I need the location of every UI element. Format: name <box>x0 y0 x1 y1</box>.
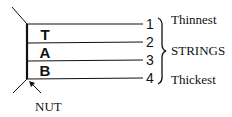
curly-brace <box>158 18 166 84</box>
thickest-label: Thickest <box>171 72 216 87</box>
nut-bottom-diagonal <box>13 79 27 93</box>
string-number-2: 2 <box>146 34 154 50</box>
strings-label: STRINGS <box>171 43 225 58</box>
nut-top-diagonal <box>12 7 27 24</box>
tab-diagram: T A B 1 2 3 4 Thinnest STRINGS Thickest … <box>0 0 232 117</box>
tab-letter-b: B <box>40 62 51 79</box>
nut-label: NUT <box>35 99 62 114</box>
string-number-1: 1 <box>146 16 154 32</box>
tab-letter-a: A <box>40 44 51 61</box>
tab-letter-t: T <box>40 26 49 43</box>
thinnest-label: Thinnest <box>171 12 217 27</box>
string-number-4: 4 <box>146 70 154 86</box>
string-number-3: 3 <box>146 52 154 68</box>
